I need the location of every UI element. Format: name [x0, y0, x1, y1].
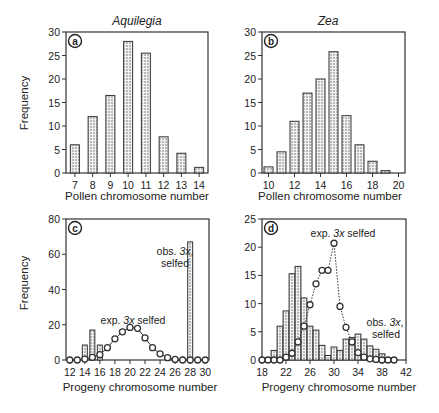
expected-marker — [355, 350, 361, 356]
y-tick-label: 0 — [250, 354, 256, 366]
bar — [319, 345, 325, 360]
y-tick-label: 20 — [48, 319, 60, 331]
bar — [283, 311, 289, 360]
panel-b-xlabel: Pollen chromosome number — [258, 190, 402, 202]
plot-frame — [66, 32, 208, 173]
expected-marker — [112, 336, 118, 342]
panel-a: Aquilegia 0510152025307891011121314a Pol… — [18, 14, 209, 202]
panel-d-xlabel: Progeny chromosome number — [262, 381, 417, 393]
y-tick-label: 0 — [250, 167, 256, 179]
expected-marker — [385, 357, 391, 363]
expected-marker — [391, 357, 397, 363]
expected-marker — [89, 354, 95, 360]
panel-a-title: Aquilegia — [111, 14, 162, 28]
bar — [337, 350, 343, 360]
panel-a-plot: 0510152025307891011121314a — [48, 26, 208, 191]
bar — [289, 274, 295, 360]
bar — [70, 145, 79, 173]
bar — [381, 171, 390, 173]
y-tick-label: 20 — [48, 73, 60, 85]
expected-marker — [104, 345, 110, 351]
x-tick-label: 22 — [280, 366, 292, 378]
y-tick-label: 15 — [48, 97, 60, 109]
x-tick-label: 12 — [64, 366, 76, 378]
panel-c-ylabel: Frequency — [18, 256, 30, 311]
bar — [141, 53, 150, 173]
y-tick-label: 15 — [244, 269, 256, 281]
y-tick-label: 60 — [48, 248, 60, 260]
expected-marker — [349, 339, 355, 345]
bar — [331, 347, 337, 360]
panel-b: Zea 051015202530101214161820b Pollen chr… — [244, 14, 405, 202]
expected-marker — [74, 357, 80, 363]
expected-marker — [119, 329, 125, 335]
bar — [277, 152, 286, 173]
expected-marker — [265, 357, 271, 363]
expected-marker — [283, 354, 289, 360]
expected-marker — [343, 324, 349, 330]
expected-marker — [180, 357, 186, 363]
bar — [195, 167, 204, 173]
y-tick-label: 10 — [244, 120, 256, 132]
y-tick-label: 5 — [250, 326, 256, 338]
bar — [124, 41, 133, 173]
expected-marker — [325, 267, 331, 273]
x-tick-label: 42 — [400, 366, 412, 378]
bar — [325, 355, 331, 360]
panel-c-plot: 02040608012141618202224262830c — [48, 213, 211, 378]
x-tick-label: 30 — [328, 366, 340, 378]
bar — [307, 326, 313, 360]
expected-marker — [379, 357, 385, 363]
bar — [177, 153, 186, 173]
y-tick-label: 0 — [54, 354, 60, 366]
bar — [303, 93, 312, 173]
y-tick-label: 25 — [244, 50, 256, 62]
bar — [88, 117, 97, 173]
x-tick-label: 34 — [352, 366, 364, 378]
x-tick-label: 22 — [139, 366, 151, 378]
y-tick-label: 80 — [48, 213, 60, 225]
x-tick-label: 18 — [256, 366, 268, 378]
expected-marker — [277, 357, 283, 363]
y-tick-label: 10 — [244, 298, 256, 310]
y-tick-label: 25 — [244, 213, 256, 225]
panel-d: 051015202518222630343842d Progeny chromo… — [244, 213, 416, 393]
bar — [277, 326, 283, 360]
bar — [264, 167, 273, 173]
expected-marker — [367, 356, 373, 362]
x-tick-label: 16 — [94, 366, 106, 378]
y-tick-label: 40 — [48, 284, 60, 296]
y-tick-label: 5 — [250, 144, 256, 156]
y-tick-label: 15 — [244, 97, 256, 109]
y-tick-label: 25 — [48, 50, 60, 62]
y-tick-label: 20 — [244, 73, 256, 85]
expected-marker — [157, 351, 163, 357]
expected-marker — [142, 335, 148, 341]
bar — [355, 145, 364, 173]
y-tick-label: 20 — [244, 241, 256, 253]
expected-marker — [313, 281, 319, 287]
x-tick-label: 18 — [109, 366, 121, 378]
bar — [159, 137, 168, 173]
expected-marker — [259, 357, 265, 363]
bar — [343, 339, 349, 360]
x-tick-label: 26 — [304, 366, 316, 378]
expected-marker — [150, 345, 156, 351]
expected-marker — [337, 303, 343, 309]
x-tick-label: 38 — [376, 366, 388, 378]
panel-c: 02040608012141618202224262830c Progeny c… — [18, 213, 218, 393]
bar — [313, 330, 319, 360]
panel-a-xlabel: Pollen chromosome number — [65, 190, 209, 202]
y-tick-label: 30 — [48, 26, 60, 38]
expected-marker — [172, 356, 178, 362]
expected-marker — [97, 352, 103, 358]
expected-marker — [289, 350, 295, 356]
x-tick-label: 26 — [169, 366, 181, 378]
y-tick-label: 30 — [244, 26, 256, 38]
bar — [368, 161, 377, 173]
expected-marker — [301, 323, 307, 329]
x-tick-label: 14 — [79, 366, 91, 378]
panel-c-xlabel: Progeny chromosome number — [63, 381, 218, 393]
expected-marker — [202, 357, 208, 363]
y-tick-label: 0 — [54, 167, 60, 179]
